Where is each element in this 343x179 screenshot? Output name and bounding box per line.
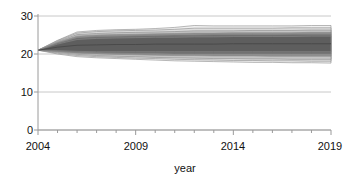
y-tick-label-10: 10 [21,86,33,98]
x-tick-label-2004: 2004 [26,140,50,152]
y-tick-label-30: 30 [21,10,33,22]
y-tick-labels-group: 30 20 10 0 [21,10,33,136]
x-axis-title: year [174,162,196,174]
y-tick-label-20: 20 [21,48,33,60]
x-tick-labels-group: 2004 2009 2014 2019 [26,140,342,152]
y-ticks-group [34,16,38,130]
x-ticks-group [38,130,331,135]
x-tick-label-2009: 2009 [124,140,148,152]
fan-chart-container: 30 20 10 0 2004 2009 2014 2019 year [0,0,343,179]
fan-chart-svg: 30 20 10 0 2004 2009 2014 2019 year [0,0,343,179]
y-tick-label-0: 0 [27,124,33,136]
x-tick-label-2019: 2019 [318,140,342,152]
x-tick-label-2014: 2014 [221,140,245,152]
